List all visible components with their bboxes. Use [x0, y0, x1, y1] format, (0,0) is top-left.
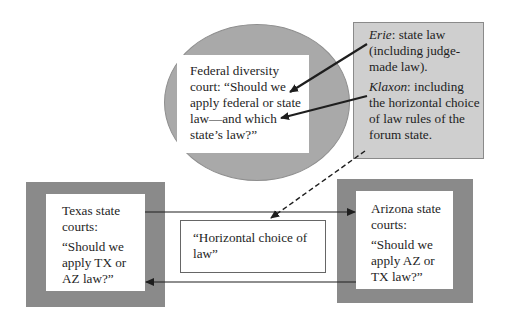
dashed-arrow	[271, 151, 365, 218]
arrows-layer	[0, 0, 506, 318]
klaxon-arrow	[281, 96, 367, 118]
erie-arrow	[290, 44, 367, 92]
